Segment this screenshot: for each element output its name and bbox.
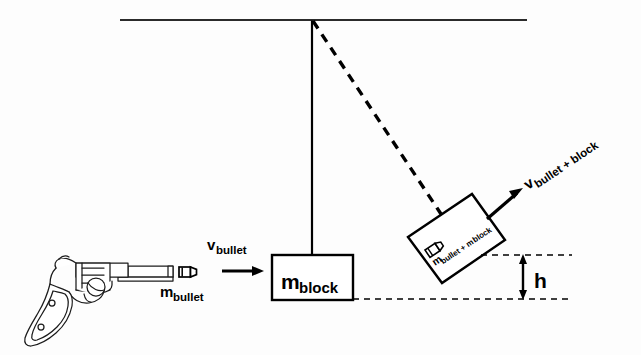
block-swung <box>408 194 505 283</box>
m-block-subscript: block <box>299 279 339 296</box>
v-bullet-main: v <box>207 236 216 253</box>
v-combined-label-group: v bullet + block <box>520 132 600 195</box>
m-block-main: m <box>281 270 300 293</box>
pendulum-string-swung <box>313 21 441 214</box>
height-label: h <box>534 269 547 292</box>
m-bullet-subscript: bullet <box>173 291 204 303</box>
v-bullet-label-group: v bullet <box>207 236 247 256</box>
m-bullet-main: m <box>160 283 173 300</box>
v-combined-subscript: bullet + block <box>532 138 600 189</box>
arrow-diagonal-up-right-icon <box>487 188 523 219</box>
v-bullet-subscript: bullet <box>216 244 247 256</box>
revolver-icon <box>25 256 173 346</box>
m-bullet-label-group: m bullet <box>160 283 204 303</box>
block-swung-group: m bullet + m ​ block <box>408 194 505 283</box>
bullet-icon <box>179 267 197 277</box>
double-arrow-vertical-icon <box>519 254 527 300</box>
diagram-canvas: m block m bullet + m ​ block <box>0 0 641 355</box>
ballistic-pendulum-diagram: m block m bullet + m ​ block <box>0 0 641 355</box>
arrow-right-icon <box>222 266 264 276</box>
